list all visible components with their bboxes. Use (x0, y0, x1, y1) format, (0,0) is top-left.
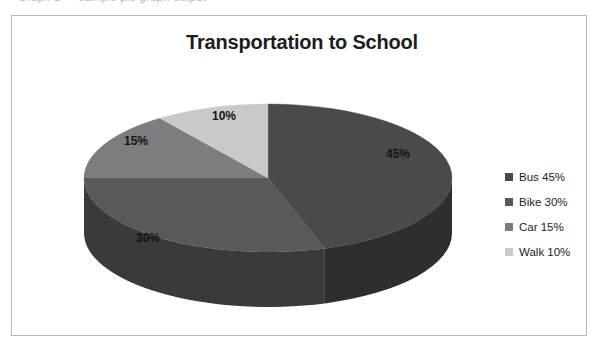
pie-chart-plot-area: 45% 30% 15% 10% (12, 16, 482, 337)
scan-top-clipped-text: Graph 1 — sample pie graph output (0, 0, 599, 11)
legend-item-car[interactable]: Car 15% (505, 214, 591, 239)
slice-label-walk: 10% (212, 109, 236, 123)
legend-label-car: Car 15% (519, 221, 564, 233)
legend-item-walk[interactable]: Walk 10% (505, 239, 591, 264)
pie-chart-svg (12, 16, 482, 337)
slice-label-bike: 30% (136, 231, 160, 245)
slice-label-bus: 45% (386, 147, 410, 161)
legend-swatch-icon-bus (505, 173, 513, 181)
legend-item-bus[interactable]: Bus 45% (505, 164, 591, 189)
legend-swatch-icon-bike (505, 198, 513, 206)
legend-label-bus: Bus 45% (519, 171, 565, 183)
scan-top-clipped-text-label: Graph 1 — sample pie graph output (18, 0, 206, 3)
chart-legend: Bus 45% Bike 30% Car 15% Walk 10% (505, 164, 591, 264)
legend-swatch-icon-walk (505, 248, 513, 256)
legend-item-bike[interactable]: Bike 30% (505, 189, 591, 214)
slice-label-car: 15% (124, 134, 148, 148)
legend-label-walk: Walk 10% (519, 246, 570, 258)
legend-label-bike: Bike 30% (519, 196, 568, 208)
legend-swatch-icon-car (505, 223, 513, 231)
chart-frame: Transportation to School 45% 30% 15% 10%… (11, 15, 587, 336)
